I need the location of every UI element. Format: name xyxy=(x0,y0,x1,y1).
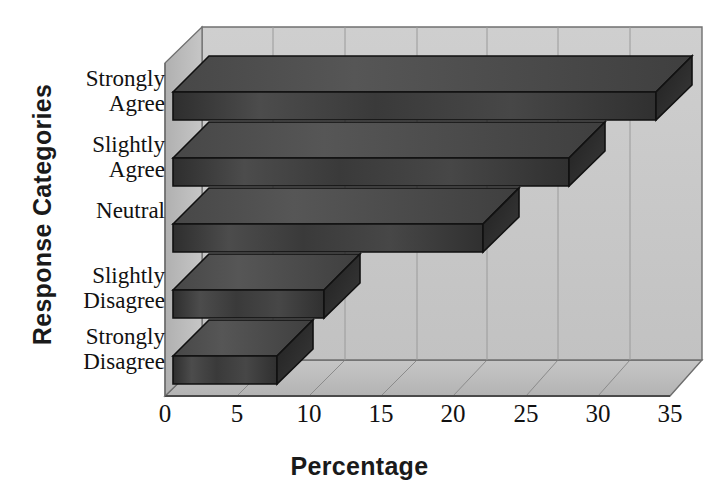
bar-slightly-disagree xyxy=(173,254,360,318)
y-tick-label-neutral: Neutral xyxy=(0,198,165,223)
y-tick-label-strongly-disagree: Strongly Disagree xyxy=(0,324,165,374)
y-tick-line-2: Disagree xyxy=(0,349,165,374)
x-tick-label-0: 0 xyxy=(135,400,195,428)
x-tick-label-30: 30 xyxy=(568,400,628,428)
y-tick-line-2: Agree xyxy=(0,157,165,182)
y-tick-label-strongly-agree: Strongly Agree xyxy=(0,66,165,116)
bar-slightly-agree xyxy=(173,122,605,186)
y-tick-line-1: Strongly xyxy=(0,66,165,91)
y-axis-title: Response Categories xyxy=(28,55,57,375)
x-axis-title: Percentage xyxy=(0,452,719,481)
chart-container: Strongly Agree Slightly Agree Neutral Sl… xyxy=(0,0,719,495)
y-tick-line-1: Slightly xyxy=(0,263,165,288)
x-tick-label-35: 35 xyxy=(640,400,700,428)
y-tick-label-slightly-agree: Slightly Agree xyxy=(0,132,165,182)
bar-neutral xyxy=(173,188,519,252)
x-tick-label-25: 25 xyxy=(496,400,556,428)
bar-strongly-agree xyxy=(173,56,692,120)
y-tick-line-2: Disagree xyxy=(0,288,165,313)
x-tick-label-5: 5 xyxy=(207,400,267,428)
y-tick-label-slightly-disagree: Slightly Disagree xyxy=(0,263,165,313)
x-tick-label-15: 15 xyxy=(351,400,411,428)
y-tick-line-2: Agree xyxy=(0,91,165,116)
y-tick-line-1: Strongly xyxy=(0,324,165,349)
y-tick-line-1: Neutral xyxy=(0,198,165,223)
x-tick-label-20: 20 xyxy=(423,400,483,428)
x-tick-label-10: 10 xyxy=(279,400,339,428)
y-tick-line-1: Slightly xyxy=(0,132,165,157)
